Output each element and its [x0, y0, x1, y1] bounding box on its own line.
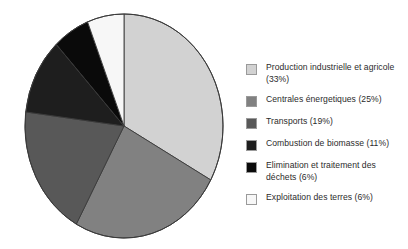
- legend-swatch-transports: [246, 118, 257, 129]
- legend-label-exploitation-des-terres: Exploitation des terres (6%): [266, 192, 373, 204]
- legend-label-transports: Transports (19%): [266, 116, 333, 128]
- legend-swatch-combustion-de-biomasse: [246, 140, 257, 151]
- legend-swatch-elimination-et-traitement-des-dechets: [246, 162, 257, 173]
- legend-item-combustion-de-biomasse: Combustion de biomasse (11%): [246, 138, 404, 151]
- legend-item-exploitation-des-terres: Exploitation des terres (6%): [246, 192, 404, 205]
- pie-chart-figure: Production industrielle et agricole (33%…: [0, 0, 408, 249]
- legend-swatch-centrales-energetiques: [246, 96, 257, 107]
- pie-slice-group: [25, 14, 223, 238]
- legend-label-elimination-et-traitement-des-dechets: Elimination et traitement des déchets (6…: [266, 160, 402, 183]
- legend-item-elimination-et-traitement-des-dechets: Elimination et traitement des déchets (6…: [246, 160, 404, 183]
- legend-item-production-industrielle-et-agricole: Production industrielle et agricole (33%…: [246, 62, 404, 85]
- legend-label-combustion-de-biomasse: Combustion de biomasse (11%): [266, 138, 389, 150]
- pie-chart-graphic: [24, 13, 224, 239]
- legend-swatch-exploitation-des-terres: [246, 194, 257, 205]
- legend-item-centrales-energetiques: Centrales énergetiques (25%): [246, 94, 404, 107]
- chart-legend: Production industrielle et agricole (33%…: [246, 62, 404, 214]
- pie-svg: [24, 13, 224, 239]
- legend-label-centrales-energetiques: Centrales énergetiques (25%): [266, 94, 382, 106]
- legend-swatch-production-industrielle-et-agricole: [246, 64, 257, 75]
- legend-label-production-industrielle-et-agricole: Production industrielle et agricole (33%…: [266, 62, 402, 85]
- legend-item-transports: Transports (19%): [246, 116, 404, 129]
